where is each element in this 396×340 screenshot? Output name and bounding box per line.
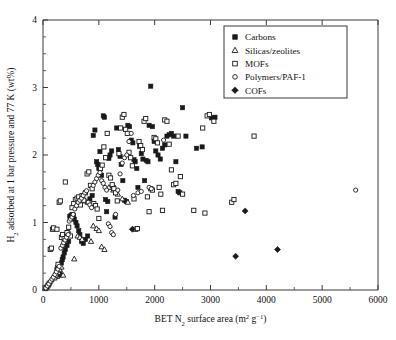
data-point xyxy=(174,160,178,164)
data-point xyxy=(203,211,207,215)
data-point xyxy=(147,210,151,214)
data-point xyxy=(87,170,91,174)
data-point xyxy=(144,116,148,120)
data-point xyxy=(133,160,137,164)
data-point xyxy=(163,143,167,147)
data-point xyxy=(111,233,115,237)
data-point xyxy=(167,142,171,146)
data-point xyxy=(66,233,70,237)
data-point xyxy=(129,156,133,160)
data-point xyxy=(139,189,143,193)
data-point xyxy=(155,141,159,145)
legend-label[interactable]: COFs xyxy=(245,86,267,96)
legend-box xyxy=(224,26,347,98)
data-point xyxy=(157,185,161,189)
data-point xyxy=(116,148,120,152)
data-point xyxy=(98,170,102,174)
series-polymers-paf-1 xyxy=(44,131,358,290)
data-point xyxy=(116,188,120,192)
data-point xyxy=(103,156,107,160)
data-point xyxy=(108,153,112,157)
data-point xyxy=(136,185,140,189)
data-point xyxy=(125,153,129,157)
data-point xyxy=(143,179,147,183)
data-point xyxy=(172,134,176,138)
data-point xyxy=(174,181,178,185)
data-point xyxy=(110,183,114,187)
data-point xyxy=(57,264,61,268)
data-point xyxy=(169,168,173,172)
data-point xyxy=(101,181,105,185)
data-point xyxy=(117,152,121,156)
data-point xyxy=(67,225,71,229)
plot-canvas: 010002000300040005000600001234 CarbonsSi… xyxy=(0,0,396,340)
x-axis-title: BET N2 surface area (m2 g−1) xyxy=(155,313,267,327)
data-point xyxy=(140,148,144,152)
data-point xyxy=(75,224,79,228)
data-point xyxy=(95,207,99,211)
data-point xyxy=(233,253,239,259)
data-point xyxy=(63,247,67,251)
data-point xyxy=(159,192,163,196)
x-tick-label: 5000 xyxy=(313,295,332,305)
data-point xyxy=(105,131,109,135)
data-point xyxy=(184,134,188,138)
data-point xyxy=(91,223,96,228)
y-axis-title: H2 adsorbed at 1 bar pressure and 77 K (… xyxy=(6,67,19,242)
data-point xyxy=(102,115,106,119)
data-point xyxy=(72,256,77,261)
data-point xyxy=(89,206,93,210)
data-point xyxy=(145,195,149,199)
data-point xyxy=(81,241,85,245)
data-point xyxy=(93,128,97,132)
legend[interactable]: CarbonsSilicas/zeolitesMOFsPolymers/PAF-… xyxy=(224,26,347,98)
data-point xyxy=(149,187,153,191)
legend-label[interactable]: Silicas/zeolites xyxy=(245,46,301,56)
data-point xyxy=(150,125,154,129)
y-tick-label: 0 xyxy=(32,285,37,295)
data-point xyxy=(232,197,236,201)
data-point xyxy=(154,149,158,153)
data-point xyxy=(118,172,122,176)
data-point xyxy=(192,208,196,212)
data-point xyxy=(88,239,93,244)
data-point xyxy=(135,166,139,170)
y-tick-label: 3 xyxy=(32,83,37,93)
x-tick-label: 6000 xyxy=(369,295,388,305)
data-point xyxy=(108,224,112,228)
x-tick-label: 3000 xyxy=(201,295,220,305)
data-point xyxy=(165,119,169,123)
data-point xyxy=(130,164,134,168)
data-point xyxy=(55,227,59,231)
data-point xyxy=(212,119,216,123)
data-point xyxy=(127,139,131,143)
data-point xyxy=(113,212,117,216)
data-point xyxy=(131,193,135,197)
x-tick-label: 0 xyxy=(41,295,46,305)
data-point xyxy=(115,199,119,203)
data-point xyxy=(61,255,65,259)
data-point xyxy=(156,153,160,157)
legend-marker-open-square xyxy=(233,61,238,66)
data-point xyxy=(96,162,100,166)
x-tick-label: 4000 xyxy=(257,295,276,305)
scatter-figure: 010002000300040005000600001234 CarbonsSi… xyxy=(0,0,396,340)
data-point xyxy=(105,210,109,214)
data-point xyxy=(77,229,81,233)
legend-label[interactable]: Polymers/PAF-1 xyxy=(245,72,306,82)
data-point xyxy=(124,127,128,131)
series-cofs xyxy=(129,208,280,259)
data-point xyxy=(158,157,162,161)
legend-label[interactable]: Carbons xyxy=(245,32,276,42)
data-point xyxy=(139,143,143,147)
data-point xyxy=(71,212,75,216)
data-point xyxy=(110,149,114,153)
y-tick-label: 4 xyxy=(32,15,37,25)
data-point xyxy=(252,134,256,138)
y-tick-label: 1 xyxy=(32,218,37,228)
legend-label[interactable]: MOFs xyxy=(245,59,269,69)
legend-marker-filled-square xyxy=(233,35,238,40)
x-tick-label: 1000 xyxy=(89,295,108,305)
data-point xyxy=(120,161,124,165)
data-point xyxy=(100,163,104,167)
